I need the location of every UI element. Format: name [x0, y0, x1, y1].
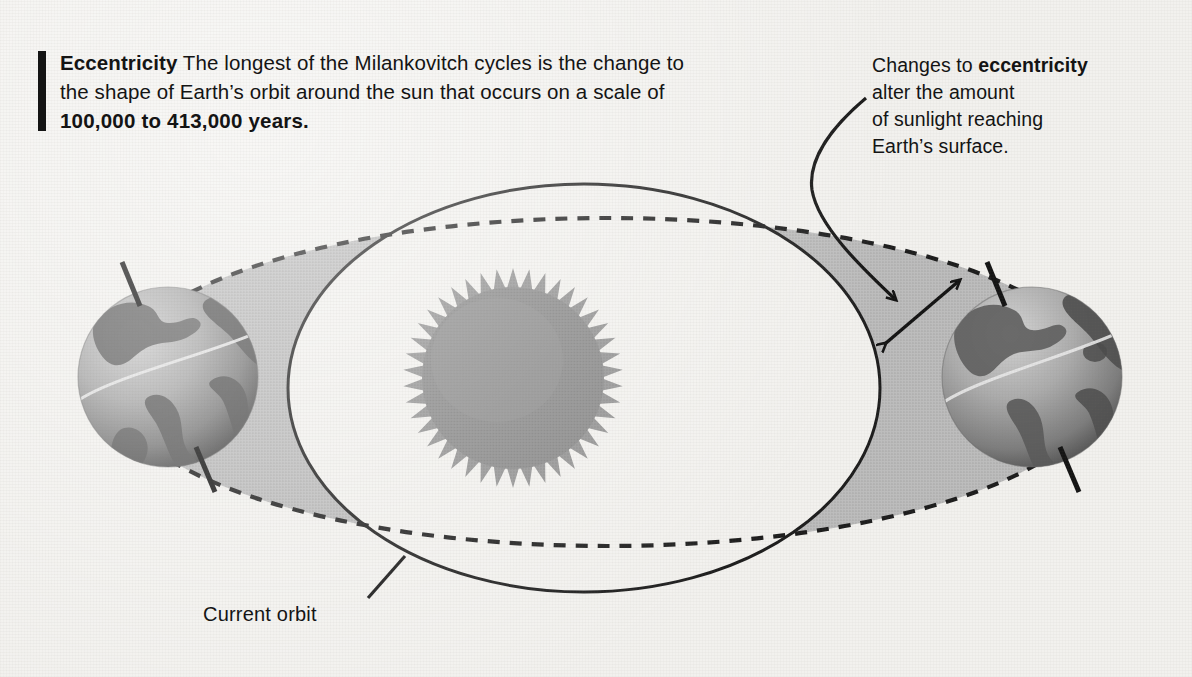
annotation-line-1-bold: eccentricity — [978, 54, 1088, 76]
accent-bar — [38, 51, 46, 131]
annotation-line-2: alter the amount — [872, 79, 1172, 106]
annotation-line-3: of sunlight reaching — [872, 106, 1172, 133]
callout-lead-term: Eccentricity — [60, 51, 177, 74]
callout-text: Eccentricity The longest of the Milankov… — [60, 48, 708, 135]
current-orbit-label: Current orbit — [203, 603, 317, 626]
sun-highlight — [431, 298, 563, 422]
annotation-line-4: Earth’s surface. — [872, 133, 1172, 160]
figure-stage: Eccentricity The longest of the Milankov… — [0, 0, 1192, 677]
eccentricity-annotation: Changes to eccentricity alter the amount… — [872, 52, 1172, 160]
annotation-line-1: Changes to eccentricity — [872, 52, 1172, 79]
eccentricity-callout: Eccentricity The longest of the Milankov… — [38, 48, 718, 135]
callout-highlight-years: 100,000 to 413,000 years. — [60, 109, 309, 132]
annotation-line-1-pre: Changes to — [872, 54, 978, 76]
